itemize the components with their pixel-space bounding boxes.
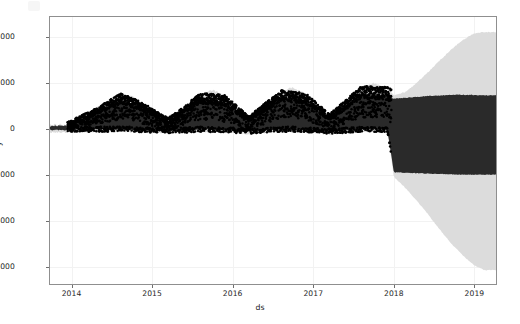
x-axis-tick-label: 2014 (42, 289, 102, 298)
x-axis-tick-mark (72, 285, 73, 288)
x-axis-tick-mark (313, 285, 314, 288)
x-axis-tick-label: 2018 (364, 289, 424, 298)
x-axis-label: ds (0, 303, 520, 312)
x-axis-tick-mark (152, 285, 153, 288)
y-axis-tick-mark (46, 37, 49, 38)
y-axis-tick-mark (46, 267, 49, 268)
x-axis-tick-mark (233, 285, 234, 288)
forecast-chart-figure: 400020000−2000−4000−6000 201420152016201… (0, 0, 520, 324)
x-axis-tick-mark (474, 285, 475, 288)
y-axis-tick-label: −6000 (0, 262, 15, 271)
plot-area (49, 16, 497, 285)
y-axis-tick-label: −2000 (0, 170, 15, 179)
x-axis-tick-label: 2017 (283, 289, 343, 298)
y-axis-tick-mark (46, 175, 49, 176)
chart-graphics (49, 16, 497, 285)
y-axis-tick-label: −4000 (0, 216, 15, 225)
y-axis-tick-label: 2000 (0, 78, 15, 87)
figure-corner-artifact (28, 1, 40, 11)
x-axis-tick-label: 2016 (203, 289, 263, 298)
observed-data-points (66, 85, 392, 153)
x-axis-tick-mark (394, 285, 395, 288)
y-axis-tick-label: 0 (0, 124, 15, 133)
y-axis-tick-mark (46, 221, 49, 222)
x-axis-tick-label: 2019 (444, 289, 504, 298)
x-axis-tick-label: 2015 (122, 289, 182, 298)
y-axis-tick-label: 4000 (0, 32, 15, 41)
y-axis-tick-mark (46, 129, 49, 130)
y-axis-label: y (0, 141, 3, 146)
y-axis-tick-mark (46, 83, 49, 84)
